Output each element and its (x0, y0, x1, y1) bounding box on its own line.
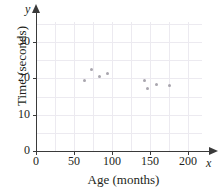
plot-area (36, 22, 202, 151)
data-point (146, 87, 149, 90)
y-axis-line (36, 12, 37, 152)
gridline-horizontal (36, 115, 202, 116)
x-axis-tick-label: 200 (171, 155, 205, 168)
x-axis-variable-symbol: x (206, 156, 211, 171)
gridline-horizontal (36, 133, 202, 134)
gridline-horizontal (36, 42, 202, 43)
y-axis-arrowhead (32, 4, 40, 13)
gridline-horizontal (36, 97, 202, 98)
y-axis-tick (33, 42, 36, 43)
scatter-plot-figure: x y Age (months) Time (seconds) 05010015… (0, 0, 223, 195)
y-axis-tick-label: 10 (8, 108, 30, 121)
x-axis-title: Age (months) (36, 172, 211, 188)
x-axis-arrowhead (209, 147, 218, 155)
gridline-horizontal (36, 78, 202, 79)
gridline-horizontal (36, 60, 202, 61)
x-axis-tick-label: 100 (95, 155, 129, 168)
data-point (155, 83, 158, 86)
y-axis-tick-label: 0 (8, 144, 30, 157)
y-axis-tick (33, 78, 36, 79)
y-axis-tick (33, 151, 36, 152)
x-axis-tick-label: 50 (57, 155, 91, 168)
y-axis-tick-label: 20 (8, 71, 30, 84)
gridline-horizontal (36, 24, 202, 25)
y-axis-tick (33, 115, 36, 116)
data-point (143, 79, 146, 82)
data-point (83, 79, 86, 82)
y-axis-tick-label: 30 (8, 35, 30, 48)
x-axis-line (36, 151, 211, 152)
x-axis-tick-label: 150 (133, 155, 167, 168)
